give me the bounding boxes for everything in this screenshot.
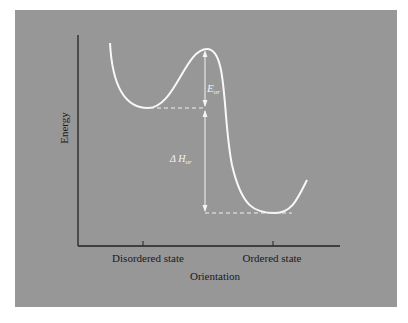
y-axis-label: Energy — [58, 112, 70, 144]
enthalpy-change-label: Δ Hor — [169, 153, 192, 166]
x-tick-label-ordered: Ordered state — [243, 252, 302, 264]
energy-curve — [110, 43, 307, 213]
axes — [78, 35, 340, 246]
enthalpy-change-arrow — [203, 110, 208, 212]
activation-energy-arrow — [203, 50, 208, 107]
energy-diagram: Eor Δ Hor Energy Disordered state Ordere… — [0, 0, 408, 323]
activation-energy-label: Eor — [206, 82, 220, 96]
x-axis-label: Orientation — [190, 270, 241, 282]
x-tick-label-disordered: Disordered state — [112, 252, 184, 264]
